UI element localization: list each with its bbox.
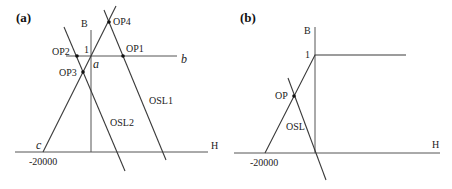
panel-a: (a) H B b 1 a c -20000 OSL2 OSL1 OP1 OP2… xyxy=(15,6,218,171)
op-label: OP xyxy=(275,90,288,101)
tick-h-label: -20000 xyxy=(250,157,278,168)
panel-a-label: (a) xyxy=(16,10,31,25)
tick-h-label: -20000 xyxy=(29,156,57,167)
op1-label: OP1 xyxy=(126,43,144,54)
op2-label: OP2 xyxy=(52,46,70,57)
osl1-label: OSL1 xyxy=(149,95,173,106)
b-axis-label: B xyxy=(304,25,311,36)
op4-dot xyxy=(107,20,111,24)
point-a-label: a xyxy=(93,57,99,71)
panel-b: (b) H B 1 -20000 OSL OP xyxy=(234,10,440,180)
bh-curve-line xyxy=(265,55,406,153)
op3-dot xyxy=(81,70,85,74)
op-dot xyxy=(292,94,296,98)
osl2-label: OSL2 xyxy=(110,117,134,128)
bh-curve-line xyxy=(43,6,116,152)
op4-label: OP4 xyxy=(113,16,131,27)
op2-dot xyxy=(75,54,79,58)
op1-dot xyxy=(121,54,125,58)
h-axis-label: H xyxy=(432,139,439,150)
panel-b-label: (b) xyxy=(240,10,256,25)
point-c-label: c xyxy=(36,138,42,152)
diagram-canvas: (a) H B b 1 a c -20000 OSL2 OSL1 OP1 OP2… xyxy=(0,0,452,189)
tick-one-label: 1 xyxy=(84,44,89,55)
op3-label: OP3 xyxy=(59,67,77,78)
osl1-line xyxy=(104,10,166,160)
osl-label: OSL xyxy=(286,121,305,132)
b-axis-label: B xyxy=(81,18,88,29)
tick-one-label: 1 xyxy=(305,49,310,60)
point-b-label: b xyxy=(181,52,187,66)
h-axis-label: H xyxy=(211,140,218,151)
